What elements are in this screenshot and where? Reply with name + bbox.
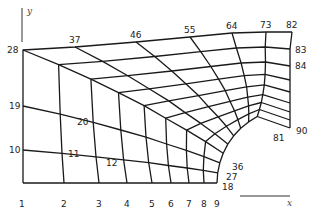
node-label: 19 <box>9 101 21 111</box>
node-label: 8 <box>201 199 207 209</box>
node-label: 7 <box>186 199 192 209</box>
mesh-column-line <box>23 32 292 183</box>
node-label: 55 <box>184 25 195 35</box>
mesh-row-line <box>23 50 223 153</box>
node-label: 6 <box>168 199 174 209</box>
node-label: 90 <box>296 126 308 136</box>
node-label: 27 <box>226 172 237 182</box>
node-label: 1 <box>19 199 25 209</box>
node-label: 37 <box>69 35 80 45</box>
node-label: 3 <box>96 199 102 209</box>
node-label: 64 <box>226 21 238 31</box>
y-axis-label: y <box>26 6 33 16</box>
finite-element-mesh: y x 123456789101928374655647382838490811… <box>0 0 311 215</box>
node-label: 20 <box>77 117 89 127</box>
mesh-column-line <box>119 74 291 183</box>
node-label: 46 <box>130 30 142 40</box>
mesh-row-line <box>290 32 292 128</box>
node-label: 9 <box>214 199 220 209</box>
node-label: 5 <box>149 199 155 209</box>
node-label: 36 <box>232 162 244 172</box>
mesh-row-line <box>23 150 218 173</box>
mesh-column-line <box>166 95 290 183</box>
node-label: 82 <box>286 20 297 30</box>
mesh-lines <box>23 32 292 183</box>
node-label: 73 <box>260 20 271 30</box>
node-label: 81 <box>273 133 284 143</box>
node-label: 10 <box>9 145 21 155</box>
x-axis-label: x <box>287 198 292 208</box>
node-label: 83 <box>295 45 306 55</box>
node-label: 84 <box>295 61 307 71</box>
node-label: 12 <box>106 158 117 168</box>
node-label: 11 <box>68 149 79 159</box>
node-label: 4 <box>124 199 130 209</box>
axes: y x <box>22 6 292 208</box>
node-label: 18 <box>222 182 234 192</box>
node-label: 28 <box>7 45 19 55</box>
node-label: 2 <box>61 199 67 209</box>
